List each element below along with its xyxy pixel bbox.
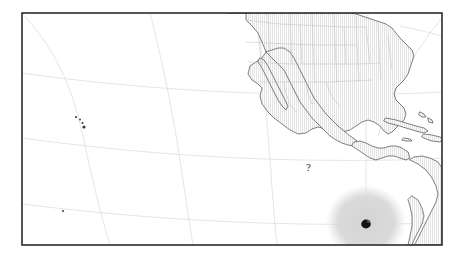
- hawaii-oahu-island: [79, 119, 81, 121]
- hawaii-maui-island: [82, 122, 84, 124]
- question-mark-annotation: ?: [306, 162, 311, 173]
- clipperton-island: [62, 210, 64, 212]
- location-marker-highlight: [367, 220, 370, 223]
- hawaii-kauai-island: [75, 116, 77, 118]
- map-figure: ?: [0, 0, 464, 262]
- hawaii-bigisland-island: [82, 125, 85, 128]
- map-canvas: [0, 0, 464, 262]
